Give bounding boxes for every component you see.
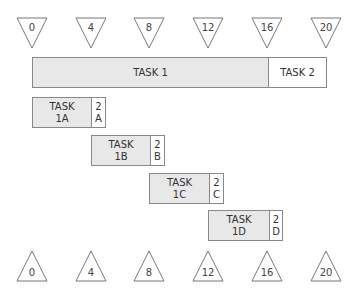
task-2d-block: 2D — [269, 211, 282, 240]
task-label: TASK — [226, 214, 251, 225]
task-2-label: TASK 2 — [280, 67, 315, 79]
task-id: 1B — [114, 151, 127, 162]
tick-label: 8 — [133, 22, 165, 33]
bottom-marker-16: 16 — [251, 250, 283, 282]
task-label: 2 — [273, 214, 279, 225]
tick-label: 4 — [75, 267, 107, 278]
subtask-row-a: TASK1A 2A — [32, 97, 106, 128]
bottom-marker-8: 8 — [133, 250, 165, 282]
task-id: C — [213, 189, 220, 200]
task-2-block: TASK 2 — [268, 58, 326, 87]
bottom-marker-4: 4 — [75, 250, 107, 282]
task-2c-block: 2C — [209, 174, 223, 203]
tick-label: 16 — [251, 22, 283, 33]
task-id: B — [154, 151, 161, 162]
tick-label: 12 — [192, 267, 224, 278]
task-2a-block: 2A — [91, 98, 105, 127]
task-id: D — [272, 226, 280, 237]
top-marker-20: 20 — [310, 17, 342, 49]
task-1d-block: TASK1D — [209, 211, 269, 240]
task-1b-block: TASK1B — [92, 136, 150, 165]
tick-label: 8 — [133, 267, 165, 278]
task-label: TASK — [167, 177, 192, 188]
tick-label: 12 — [192, 22, 224, 33]
task-id: 1C — [173, 189, 186, 200]
main-task-bar: TASK 1 TASK 2 — [32, 57, 327, 88]
top-marker-16: 16 — [251, 17, 283, 49]
task-label: 2 — [213, 177, 219, 188]
task-id: 1D — [232, 226, 246, 237]
tick-label: 0 — [16, 267, 48, 278]
task-label: TASK — [108, 139, 133, 150]
top-marker-0: 0 — [16, 17, 48, 49]
tick-label: 20 — [310, 267, 342, 278]
task-1-block: TASK 1 — [33, 58, 268, 87]
task-1c-block: TASK1C — [150, 174, 209, 203]
bottom-marker-0: 0 — [16, 250, 48, 282]
top-marker-4: 4 — [75, 17, 107, 49]
top-marker-8: 8 — [133, 17, 165, 49]
task-id: 1A — [55, 113, 68, 124]
subtask-row-b: TASK1B 2B — [91, 135, 165, 166]
task-2b-block: 2B — [150, 136, 164, 165]
subtask-row-c: TASK1C 2C — [149, 173, 224, 204]
task-id: A — [95, 113, 102, 124]
task-1-label: TASK 1 — [133, 67, 168, 79]
task-label: 2 — [95, 101, 101, 112]
subtask-row-d: TASK1D 2D — [208, 210, 283, 241]
tick-label: 4 — [75, 22, 107, 33]
top-marker-12: 12 — [192, 17, 224, 49]
tick-label: 0 — [16, 22, 48, 33]
bottom-marker-20: 20 — [310, 250, 342, 282]
task-label: 2 — [154, 139, 160, 150]
tick-label: 20 — [310, 22, 342, 33]
bottom-marker-12: 12 — [192, 250, 224, 282]
task-1a-block: TASK1A — [33, 98, 91, 127]
tick-label: 16 — [251, 267, 283, 278]
task-label: TASK — [49, 101, 74, 112]
